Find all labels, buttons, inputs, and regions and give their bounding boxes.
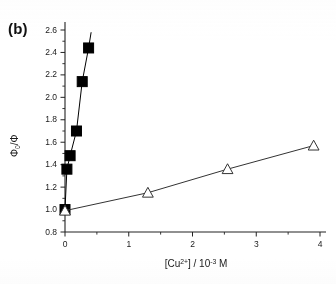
stern-volmer-figure: (b) Φ0/Φ [Cu2+] / 10-3 M 0.81.01.21.41.6… xyxy=(0,0,336,284)
x-tick-label: 2 xyxy=(183,240,203,249)
x-tick-label: 3 xyxy=(246,240,266,249)
x-tick-label: 1 xyxy=(119,240,139,249)
x-tick-label-layer: 01234 xyxy=(0,0,336,284)
x-tick-label: 4 xyxy=(310,240,330,249)
x-tick-label: 0 xyxy=(55,240,75,249)
